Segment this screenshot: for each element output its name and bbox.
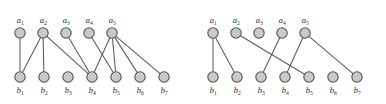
node-label-subscript: 6: [141, 90, 144, 96]
graph-node-b1[interactable]: [208, 72, 218, 82]
node-label-a1: a1: [17, 15, 24, 26]
graph-node-a2[interactable]: [231, 28, 241, 38]
graph-node-b6[interactable]: [328, 72, 338, 82]
graph-node-a4[interactable]: [277, 28, 287, 38]
node-label-b6: b6: [330, 85, 337, 96]
node-label-a4: a4: [86, 15, 93, 26]
graph-node-b2[interactable]: [39, 72, 49, 82]
bottom-node-group: b1b2b3b4b5b6b7: [208, 72, 362, 97]
node-label-subscript: 5: [117, 90, 120, 96]
graph-canvas: a1a2a3a4a5b1b2b3b4b5b6b7a1a2a3a4a5b1b2b3…: [0, 0, 386, 104]
graph-node-a1[interactable]: [15, 28, 25, 38]
node-label-subscript: 2: [45, 90, 48, 96]
node-label-subscript: 5: [113, 20, 116, 26]
node-label-subscript: 3: [69, 90, 72, 96]
node-label-b5: b5: [306, 85, 313, 96]
node-label-b2: b2: [234, 85, 241, 96]
node-label-subscript: 2: [237, 20, 240, 26]
graph-node-b5[interactable]: [304, 72, 314, 82]
node-label-subscript: 6: [334, 90, 337, 96]
graph-node-a3[interactable]: [254, 28, 264, 38]
node-label-b1: b1: [17, 85, 24, 96]
node-label-b6: b6: [137, 85, 144, 96]
graph-node-b7[interactable]: [159, 72, 169, 82]
graph-node-b7[interactable]: [352, 72, 362, 82]
graph-node-b1[interactable]: [15, 72, 25, 82]
right-graph: a1a2a3a4a5b1b2b3b4b5b6b7: [208, 15, 362, 96]
graph-edge: [115, 37, 137, 72]
edge-group: [213, 36, 353, 75]
node-label-b7: b7: [161, 85, 168, 96]
node-label-subscript: 3: [67, 20, 70, 26]
node-label-b7: b7: [354, 85, 361, 96]
node-label-a2: a2: [40, 15, 47, 26]
node-label-a2: a2: [233, 15, 240, 26]
graph-node-b5[interactable]: [111, 72, 121, 82]
graph-node-a5[interactable]: [107, 28, 117, 38]
bottom-node-group: b1b2b3b4b5b6b7: [15, 72, 169, 97]
node-label-subscript: 7: [358, 90, 361, 96]
node-label-subscript: 4: [93, 90, 96, 96]
graph-node-b4[interactable]: [87, 72, 97, 82]
node-label-subscript: 2: [44, 20, 47, 26]
graph-edge: [215, 38, 234, 73]
graph-node-b4[interactable]: [280, 72, 290, 82]
node-label-subscript: 1: [214, 20, 217, 26]
node-label-b3: b3: [65, 85, 72, 96]
node-label-subscript: 2: [238, 90, 241, 96]
node-label-subscript: 1: [21, 20, 24, 26]
node-label-subscript: 4: [286, 90, 289, 96]
graph-edge: [309, 36, 353, 73]
bipartite-graph-figure: a1a2a3a4a5b1b2b3b4b5b6b7a1a2a3a4a5b1b2b3…: [0, 0, 386, 104]
node-label-subscript: 1: [21, 90, 24, 96]
node-label-b3: b3: [258, 85, 265, 96]
node-label-a1: a1: [210, 15, 217, 26]
graph-node-b6[interactable]: [135, 72, 145, 82]
node-label-a4: a4: [279, 15, 286, 26]
graph-edge: [22, 38, 40, 73]
graph-node-a4[interactable]: [84, 28, 94, 38]
graph-node-a2[interactable]: [38, 28, 48, 38]
node-label-b4: b4: [89, 85, 96, 96]
node-label-a3: a3: [63, 15, 70, 26]
node-label-subscript: 1: [214, 90, 217, 96]
graph-edge: [112, 38, 115, 72]
node-label-a5: a5: [302, 15, 309, 26]
graph-edge: [47, 36, 88, 73]
node-label-subscript: 4: [90, 20, 93, 26]
graph-node-a3[interactable]: [61, 28, 71, 38]
graph-node-a1[interactable]: [208, 28, 218, 38]
node-label-b5: b5: [113, 85, 120, 96]
left-graph: a1a2a3a4a5b1b2b3b4b5b6b7: [15, 15, 169, 96]
node-label-b2: b2: [41, 85, 48, 96]
node-label-subscript: 5: [306, 20, 309, 26]
node-label-subscript: 5: [310, 90, 313, 96]
node-label-b4: b4: [282, 85, 289, 96]
graph-node-a5[interactable]: [300, 28, 310, 38]
graph-edge: [287, 38, 303, 73]
top-node-group: a1a2a3a4a5: [15, 15, 117, 38]
node-label-b1: b1: [210, 85, 217, 96]
graph-edge: [43, 38, 44, 72]
graph-node-b2[interactable]: [232, 72, 242, 82]
graph-edge: [69, 37, 90, 72]
edge-group: [20, 36, 160, 73]
graph-edge: [116, 36, 160, 73]
node-label-subscript: 7: [165, 90, 168, 96]
node-label-subscript: 4: [283, 20, 286, 26]
top-node-group: a1a2a3a4a5: [208, 15, 310, 38]
node-label-subscript: 3: [262, 90, 265, 96]
graph-edge: [94, 38, 110, 73]
graph-edge: [263, 38, 280, 73]
node-label-a5: a5: [109, 15, 116, 26]
graph-node-b3[interactable]: [256, 72, 266, 82]
node-label-a3: a3: [256, 15, 263, 26]
node-label-subscript: 3: [260, 20, 263, 26]
graph-node-b3[interactable]: [63, 72, 73, 82]
